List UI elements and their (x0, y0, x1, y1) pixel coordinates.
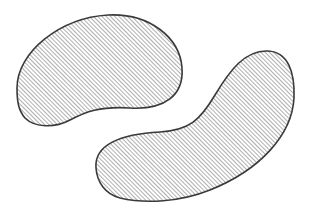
blob-upper-left (17, 15, 182, 126)
diagram-canvas (0, 0, 312, 211)
